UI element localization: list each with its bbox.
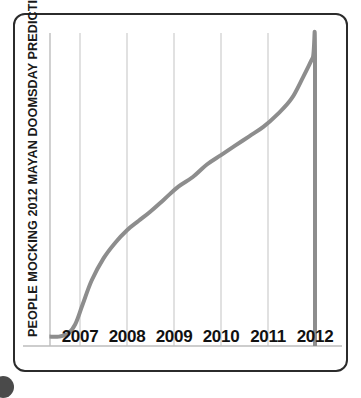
chart-svg — [15, 15, 350, 374]
gridlines-group — [80, 33, 315, 346]
corner-artifact-dot — [0, 376, 14, 398]
plot-area — [15, 15, 350, 374]
y-axis-title: PEOPLE MOCKING 2012 MAYAN DOOMSDAY PREDI… — [23, 15, 43, 347]
data-series-line — [49, 32, 315, 346]
x-tick-label-2012: 2012 — [285, 327, 345, 347]
x-axis-tick-labels: 2007 2008 2009 2010 2011 2012 — [15, 327, 350, 357]
chart-frame: PEOPLE MOCKING 2012 MAYAN DOOMSDAY PREDI… — [13, 13, 348, 372]
